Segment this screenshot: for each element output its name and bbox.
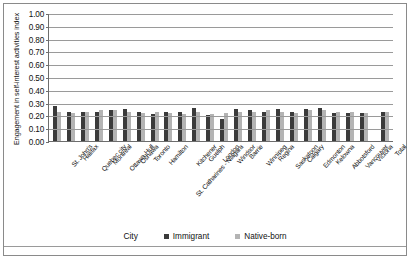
- bar-native-born: [266, 110, 270, 141]
- legend-row: City Immigrant Native-born: [0, 228, 410, 244]
- y-axis-tick-mark: [46, 78, 49, 79]
- y-axis-tick-label: 0.70: [29, 48, 44, 57]
- bar-native-born: [210, 114, 214, 141]
- y-axis-tick-mark: [46, 14, 49, 15]
- legend-item-immigrant: Immigrant: [164, 232, 209, 241]
- y-axis-tick-mark: [46, 40, 49, 41]
- y-axis-tick-label: 0.20: [29, 112, 44, 121]
- gridline: [49, 40, 393, 41]
- gridline: [49, 129, 393, 130]
- y-axis-tick-mark: [46, 104, 49, 105]
- bar-native-born: [99, 110, 103, 141]
- legend-swatch-native-born-icon: [235, 234, 240, 239]
- x-axis-tick-labels: St. John'sHalifaxQuebec cityMontrealOtta…: [48, 143, 393, 205]
- gridline: [49, 65, 393, 66]
- y-axis-tick-label: 0.50: [29, 74, 44, 83]
- gridline: [49, 52, 393, 53]
- y-axis-tick-label: 0.80: [29, 35, 44, 44]
- bar-native-born: [182, 114, 186, 141]
- bar-native-born: [308, 110, 312, 141]
- y-axis-tick-label: 0.30: [29, 99, 44, 108]
- y-axis-tick-mark: [46, 65, 49, 66]
- y-axis-tick-label: 0.10: [29, 125, 44, 134]
- y-axis-tick-labels: 1.000.900.800.700.600.500.400.300.200.10…: [18, 12, 45, 144]
- y-axis-tick-label: 0.90: [29, 22, 44, 31]
- bottom-divider: [4, 246, 406, 247]
- legend-item-native-born: Native-born: [235, 232, 286, 241]
- chart-screenshot: Engagement in self-interest activities i…: [0, 0, 410, 259]
- gridline: [49, 27, 393, 28]
- y-axis-tick-label: 0.00: [29, 138, 44, 147]
- gridline: [49, 78, 393, 79]
- y-axis-tick-mark: [46, 116, 49, 117]
- y-axis-tick-mark: [46, 91, 49, 92]
- y-axis-tick-label: 0.60: [29, 61, 44, 70]
- legend-label-immigrant: Immigrant: [173, 232, 209, 241]
- x-axis-title: City: [123, 231, 137, 241]
- gridline: [49, 91, 393, 92]
- y-axis-tick-mark: [46, 52, 49, 53]
- y-axis-tick-label: 1.00: [29, 10, 44, 19]
- y-axis-tick-label: 0.40: [29, 86, 44, 95]
- y-axis-tick-mark: [46, 27, 49, 28]
- gridline: [49, 14, 393, 15]
- plot-area: [48, 14, 393, 142]
- legend-swatch-immigrant-icon: [164, 234, 169, 239]
- bar-native-born: [322, 110, 326, 141]
- y-axis-tick-mark: [46, 129, 49, 130]
- legend-label-native-born: Native-born: [244, 232, 286, 241]
- gridline: [49, 116, 393, 117]
- bar-native-born: [113, 110, 117, 141]
- gridline: [49, 104, 393, 105]
